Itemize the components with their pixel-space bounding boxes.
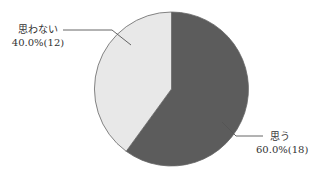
- label-no: 思わない 40.0%(12): [10, 23, 66, 49]
- label-no-name: 思わない: [10, 23, 66, 36]
- label-yes-name: 思う: [270, 130, 290, 143]
- label-yes-value: 60.0%(18): [256, 143, 308, 156]
- label-no-value: 40.0%(12): [10, 36, 66, 49]
